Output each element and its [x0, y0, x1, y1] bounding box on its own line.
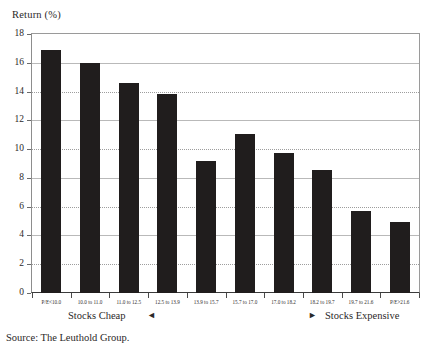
y-tick-mark [27, 120, 31, 121]
y-tick-label: 4 [19, 231, 24, 241]
bar [312, 170, 332, 293]
y-tick-mark [27, 92, 31, 93]
y-tick-label: 14 [15, 87, 25, 97]
y-tick-mark [27, 34, 31, 35]
bar [390, 222, 410, 293]
x-tick-mark [380, 293, 381, 298]
x-tick-label: 10.0 to 11.0 [78, 299, 103, 305]
bar [157, 94, 177, 293]
x-tick-mark [419, 293, 420, 298]
x-tick-mark [148, 293, 149, 298]
x-tick-label: P/E<10.0 [42, 299, 62, 305]
y-tick-mark [27, 264, 31, 265]
arrow-right-icon: ► [308, 310, 317, 320]
x-tick-label: 13.9 to 15.7 [194, 299, 219, 305]
bar [119, 83, 139, 293]
y-tick-label: 16 [15, 58, 25, 68]
source-note: Source: The Leuthold Group. [6, 331, 129, 344]
arrow-left-icon: ◄ [147, 310, 156, 320]
y-tick-label: 2 [19, 259, 24, 269]
bar [351, 211, 371, 293]
x-tick-label: 18.2 to 19.7 [310, 299, 335, 305]
x-tick-mark [342, 293, 343, 298]
x-tick-label: 17.0 to 18.2 [271, 299, 296, 305]
stocks-expensive-label: Stocks Expensive [325, 309, 399, 323]
bar [41, 50, 61, 293]
x-tick-mark [32, 293, 33, 298]
chart-axis-title: Return (%) [12, 9, 61, 20]
x-tick-mark [264, 293, 265, 298]
x-tick-label: 19.7 to 21.6 [349, 299, 374, 305]
x-tick-mark [226, 293, 227, 298]
y-tick-mark [27, 207, 31, 208]
y-axis: 024681012141618 [0, 33, 31, 294]
y-tick-mark [27, 63, 31, 64]
y-tick-label: 18 [15, 29, 25, 39]
x-tick-label: P/E>21.6 [390, 299, 410, 305]
chart-figure: Return (%) 024681012141618 P/E<10.010.0 … [0, 0, 427, 354]
y-tick-label: 12 [15, 116, 25, 126]
x-tick-mark [71, 293, 72, 298]
x-tick-label: 11.0 to 12.5 [116, 299, 141, 305]
bar [274, 153, 294, 293]
y-tick-mark [27, 178, 31, 179]
y-tick-label: 8 [19, 173, 24, 183]
y-tick-mark [27, 235, 31, 236]
y-tick-mark [27, 149, 31, 150]
y-tick-mark [27, 293, 31, 294]
bar-series [32, 34, 419, 293]
axis-annotations: Stocks Cheap ◄ ► Stocks Expensive [0, 309, 427, 329]
x-tick-mark [187, 293, 188, 298]
y-tick-label: 6 [19, 202, 24, 212]
x-tick-label: 15.7 to 17.0 [232, 299, 257, 305]
bar [235, 134, 255, 293]
x-tick-mark [303, 293, 304, 298]
x-tick-label: 12.5 to 13.9 [155, 299, 180, 305]
y-tick-label: 10 [15, 144, 25, 154]
y-tick-label: 0 [19, 288, 24, 298]
x-axis: P/E<10.010.0 to 11.011.0 to 12.512.5 to … [32, 293, 419, 307]
bar [80, 63, 100, 293]
stocks-cheap-label: Stocks Cheap [68, 309, 125, 323]
x-tick-mark [109, 293, 110, 298]
bar [196, 161, 216, 293]
